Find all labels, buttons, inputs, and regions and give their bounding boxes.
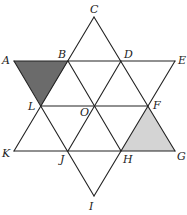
point-label-K: K bbox=[1, 147, 11, 160]
point-label-F: F bbox=[152, 99, 161, 112]
segment-IE bbox=[94, 61, 175, 196]
point-label-I: I bbox=[88, 200, 94, 213]
point-label-L: L bbox=[27, 100, 35, 113]
point-label-D: D bbox=[123, 48, 133, 61]
point-label-J: J bbox=[58, 153, 65, 166]
point-label-B: B bbox=[57, 48, 66, 61]
triangle-ABL-shade bbox=[14, 61, 68, 106]
point-label-A: A bbox=[1, 54, 10, 67]
diagram-svg: CABDELOFKJHGI bbox=[0, 0, 187, 215]
point-label-C: C bbox=[90, 3, 99, 16]
triangle-FHG-shade bbox=[121, 106, 175, 151]
point-label-G: G bbox=[177, 150, 186, 163]
point-label-H: H bbox=[122, 153, 133, 166]
point-label-E: E bbox=[177, 54, 186, 67]
point-label-O: O bbox=[80, 106, 89, 119]
line-segments bbox=[14, 17, 175, 196]
hexagram-diagram: CABDELOFKJHGI bbox=[0, 0, 187, 215]
